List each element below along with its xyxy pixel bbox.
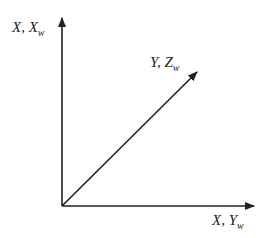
diagonal-axis: [62, 72, 197, 206]
diagonal-axis-label: Y, Zw: [150, 55, 179, 73]
horizontal-axis-label: X, Yw: [212, 213, 244, 231]
vertical-axis-label-sub: w: [38, 27, 45, 38]
vertical-axis-label: X, Xw: [12, 20, 45, 38]
diagonal-axis-label-sub: w: [173, 62, 180, 73]
diagonal-axis-label-main: Y, Z: [150, 54, 173, 70]
horizontal-axis-label-sub: w: [237, 220, 244, 231]
horizontal-axis-label-main: X, Y: [212, 212, 237, 228]
vertical-axis-label-main: X, X: [12, 19, 38, 35]
